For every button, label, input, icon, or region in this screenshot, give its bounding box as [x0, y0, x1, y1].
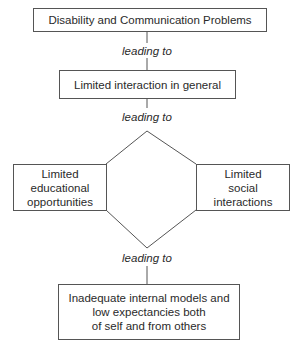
- node-limited-educational: Limited educational opportunities: [13, 164, 107, 211]
- edge-label-2: leading to: [107, 110, 187, 124]
- node-text-line: educational: [31, 181, 90, 195]
- hexagon-top-edges: [106, 131, 196, 164]
- node-text-line: opportunities: [27, 195, 93, 209]
- node-text-line: social: [228, 181, 257, 195]
- node-inadequate-internal-models: Inadequate internal models and low expec…: [58, 284, 240, 340]
- node-text: Limited interaction in general: [74, 78, 221, 92]
- node-disability-communication: Disability and Communication Problems: [33, 8, 267, 32]
- node-limited-interaction: Limited interaction in general: [59, 70, 236, 99]
- node-text-line: of self and from others: [92, 319, 206, 333]
- edge-label-3: leading to: [107, 251, 187, 265]
- node-text-line: Limited: [224, 167, 261, 181]
- node-text-line: Limited: [41, 167, 78, 181]
- hexagon-bottom-edges: [106, 210, 196, 248]
- node-limited-social: Limited social interactions: [196, 164, 290, 211]
- flowchart-diagram: Disability and Communication Problems le…: [0, 0, 303, 358]
- node-text-line: low expectancies both: [92, 305, 205, 319]
- node-text: Disability and Communication Problems: [48, 13, 251, 27]
- edge-label-1: leading to: [107, 44, 187, 58]
- node-text-line: interactions: [214, 195, 273, 209]
- node-text-line: Inadequate internal models and: [68, 291, 229, 305]
